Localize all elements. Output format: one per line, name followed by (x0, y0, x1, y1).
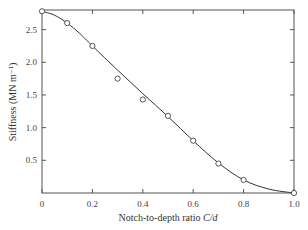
y-axis-label: Stiffness (MN m⁻¹) (7, 63, 19, 142)
y-tick-label: 2.5 (26, 25, 38, 35)
y-tick-labels: 0.51.01.52.02.5 (26, 25, 38, 166)
data-point-marker (165, 113, 170, 118)
x-tick-label: 0.6 (188, 199, 200, 209)
y-tick-label: 1.0 (26, 123, 38, 133)
x-tick-label: 1.0 (288, 199, 300, 209)
y-tick-label: 1.5 (26, 90, 38, 100)
data-point-marker (216, 161, 221, 166)
data-point-marker (90, 43, 95, 48)
x-axis-label: Notch-to-depth ratio C/d (119, 212, 219, 223)
y-tick-label: 0.5 (26, 155, 38, 165)
data-point-marker (191, 138, 196, 143)
data-point-marker (140, 97, 145, 102)
axis-ticks (42, 10, 294, 193)
x-tick-labels: 00.20.40.60.81.0 (40, 199, 300, 209)
data-point-marker (115, 76, 120, 81)
data-point-marker (291, 190, 296, 195)
fitted-curve (42, 11, 294, 193)
plot-frame (42, 10, 294, 193)
x-tick-label: 0.8 (238, 199, 250, 209)
data-point-marker (241, 177, 246, 182)
data-points (39, 9, 296, 196)
data-point-marker (65, 20, 70, 25)
x-tick-label: 0.2 (87, 199, 98, 209)
y-tick-label: 2.0 (26, 57, 38, 67)
stiffness-chart: 00.20.40.60.81.0 0.51.01.52.02.5 Notch-t… (0, 0, 308, 230)
data-point-marker (39, 9, 44, 14)
x-tick-label: 0.4 (137, 199, 149, 209)
x-tick-label: 0 (40, 199, 45, 209)
